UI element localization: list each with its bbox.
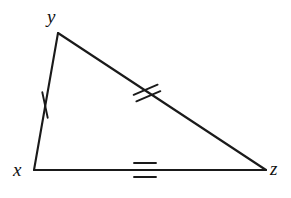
triangle-diagram-canvas [0, 0, 291, 198]
vertex-label-x: x [13, 160, 21, 179]
triangle-outline [34, 33, 266, 170]
geometry-figure: y x z [0, 0, 291, 198]
congruence-ticks-side-x-z [134, 163, 156, 177]
side-x-y [34, 33, 58, 170]
vertex-label-z: z [270, 159, 277, 178]
side-y-z [58, 33, 266, 170]
vertex-label-y: y [47, 7, 55, 26]
